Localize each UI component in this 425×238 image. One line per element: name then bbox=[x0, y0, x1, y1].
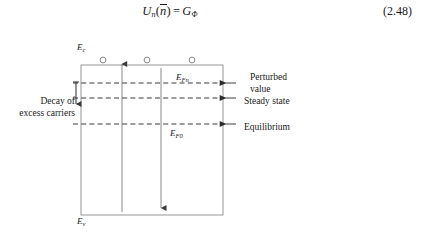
band-diagram: Ec Ev EFn EF0 Decay of excess carriers P… bbox=[0, 0, 425, 238]
band-box bbox=[81, 65, 223, 215]
electron-circle bbox=[100, 57, 106, 63]
fermi-equilibrium-label: EF0 bbox=[170, 128, 183, 139]
decay-label-line2: excess carriers bbox=[8, 108, 75, 119]
quasi-fermi-perturbed-label: EFn bbox=[176, 72, 189, 83]
band-diagram-svg bbox=[0, 0, 425, 238]
steady-state-label: Steady state bbox=[244, 96, 290, 107]
conduction-band-label: Ec bbox=[77, 42, 85, 53]
electron-circle bbox=[189, 57, 195, 63]
perturbed-label-line2: value bbox=[250, 84, 271, 95]
electron-circle bbox=[144, 57, 150, 63]
perturbed-label-line1: Perturbed bbox=[250, 72, 287, 83]
equilibrium-label: Equilibrium bbox=[244, 122, 290, 133]
decay-label-line1: Decay of bbox=[17, 96, 75, 107]
valence-band-label: Ev bbox=[77, 216, 85, 227]
